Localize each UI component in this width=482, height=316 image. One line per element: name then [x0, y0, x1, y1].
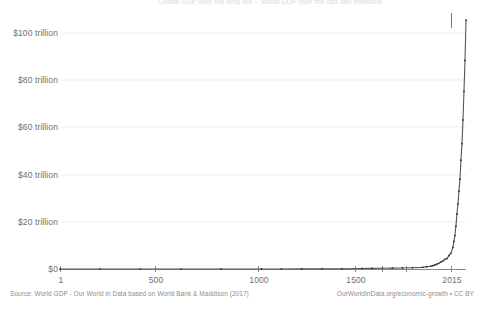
- gridlines: [60, 33, 466, 222]
- data-point: [465, 19, 467, 21]
- data-point: [446, 258, 448, 260]
- y-tick-label-40: $40 trillion: [2, 170, 58, 180]
- source-note: Source: World GDP - Our World in Data ba…: [10, 290, 249, 297]
- y-tick-label-100: $100 trillion: [2, 28, 58, 38]
- chart-container: Global GDP over the long run – World GDP…: [0, 0, 482, 316]
- data-point: [458, 190, 460, 192]
- data-point: [281, 268, 283, 270]
- data-point: [301, 268, 303, 270]
- gdp-line-series: [60, 20, 466, 269]
- data-point: [448, 255, 450, 257]
- x-tick-label-500: 500: [135, 275, 177, 285]
- data-point: [341, 268, 343, 270]
- y-tick-label-80: $80 trillion: [2, 75, 58, 85]
- y-tick-label-20: $20 trillion: [2, 217, 58, 227]
- data-point: [453, 241, 455, 243]
- gdp-data-point-markers: [59, 19, 467, 270]
- x-tick-label-2015: 2015: [429, 275, 475, 285]
- data-point: [412, 267, 414, 269]
- data-point: [455, 225, 457, 227]
- data-point: [462, 119, 464, 121]
- data-point: [456, 213, 458, 215]
- data-point: [463, 90, 465, 92]
- data-point: [440, 261, 442, 263]
- data-point: [459, 178, 461, 180]
- data-point: [461, 143, 463, 145]
- data-point: [140, 268, 142, 270]
- data-point: [452, 247, 454, 249]
- x-tick-label-1000: 1000: [236, 275, 282, 285]
- data-point: [460, 159, 462, 161]
- data-point: [361, 268, 363, 270]
- credit-note[interactable]: OurWorldInData.org/economic-growth • CC …: [337, 290, 474, 297]
- data-point: [321, 268, 323, 270]
- data-point: [180, 268, 182, 270]
- data-point: [436, 263, 438, 265]
- data-point: [99, 268, 101, 270]
- data-point: [260, 268, 262, 270]
- x-tick-label-1: 1: [46, 275, 76, 285]
- data-point: [450, 252, 452, 254]
- data-point: [392, 267, 394, 269]
- data-point: [464, 60, 466, 62]
- data-point: [434, 264, 436, 266]
- data-point: [454, 235, 456, 237]
- data-point: [444, 258, 446, 260]
- data-point: [402, 267, 404, 269]
- data-point: [442, 260, 444, 262]
- data-point: [220, 268, 222, 270]
- y-tick-label-0: $0: [2, 264, 58, 274]
- data-point: [426, 266, 428, 268]
- data-point: [371, 268, 373, 270]
- data-point: [438, 262, 440, 264]
- x-tick-label-1500: 1500: [333, 275, 379, 285]
- data-point: [59, 268, 61, 270]
- y-tick-label-60: $60 trillion: [2, 122, 58, 132]
- data-point: [430, 265, 432, 267]
- chart-plot-area: [0, 0, 482, 316]
- data-point: [432, 265, 434, 267]
- data-point: [457, 203, 459, 205]
- data-point: [422, 266, 424, 268]
- data-point: [381, 267, 383, 269]
